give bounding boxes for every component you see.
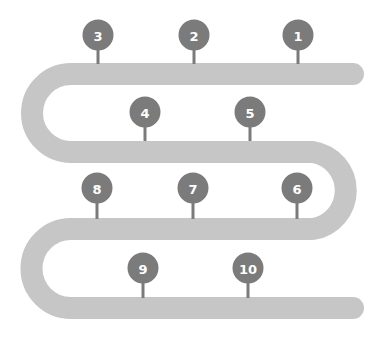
- step-marker-5: 5: [235, 97, 266, 142]
- step-marker-9: 9: [128, 253, 159, 299]
- marker-label: 2: [189, 29, 198, 44]
- marker-label: 3: [93, 29, 102, 44]
- marker-label: 5: [245, 106, 254, 121]
- marker-label: 1: [293, 29, 302, 44]
- step-marker-2: 2: [179, 20, 210, 65]
- step-marker-10: 10: [233, 253, 264, 299]
- step-marker-8: 8: [82, 173, 113, 220]
- marker-label: 9: [138, 262, 147, 277]
- marker-label: 7: [188, 182, 197, 197]
- serpentine-timeline-diagram: 12345678910: [0, 0, 384, 341]
- step-marker-7: 7: [178, 173, 209, 220]
- step-marker-4: 4: [130, 97, 161, 142]
- marker-label: 6: [292, 182, 301, 197]
- marker-label: 10: [239, 262, 257, 277]
- step-marker-1: 1: [283, 20, 314, 65]
- marker-label: 4: [140, 106, 149, 121]
- step-marker-3: 3: [83, 20, 114, 65]
- marker-label: 8: [92, 182, 101, 197]
- step-marker-6: 6: [282, 173, 313, 220]
